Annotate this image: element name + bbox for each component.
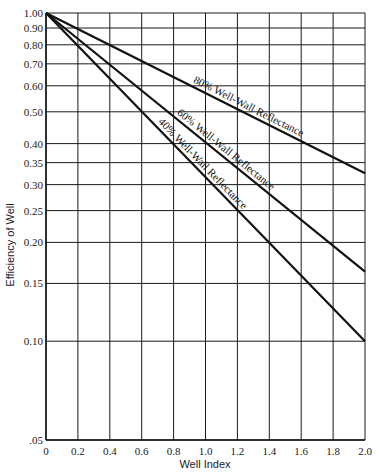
x-tick-label: 0.8 (167, 445, 181, 457)
x-tick-label: 0.4 (103, 445, 117, 457)
y-tick-label: 0.70 (24, 58, 44, 70)
y-tick-label: 0.35 (24, 157, 44, 169)
x-tick-label: 1.6 (294, 445, 308, 457)
x-tick-label: 1.2 (231, 445, 245, 457)
y-tick-label: 0.30 (24, 179, 44, 191)
x-tick-label: 2.0 (358, 445, 372, 457)
x-tick-label: 1.8 (326, 445, 340, 457)
y-tick-label: 0.15 (24, 277, 44, 289)
x-tick-label: 0 (43, 445, 49, 457)
y-tick-label: 0.60 (24, 80, 44, 92)
x-tick-label: 1.0 (199, 445, 213, 457)
y-tick-label: .05 (29, 434, 43, 446)
x-tick-label: 1.4 (262, 445, 276, 457)
y-tick-label: 0.50 (24, 106, 44, 118)
y-tick-label: 0.40 (24, 138, 44, 150)
x-tick-label: 0.2 (71, 445, 85, 457)
series-labels: 80% Well-Wall Reflectance60% Well-Wall R… (156, 73, 306, 211)
y-tick-label: 0.10 (24, 335, 44, 347)
efficiency-chart: 1.000.900.800.700.600.500.400.350.300.25… (0, 0, 379, 475)
y-tick-label: 0.80 (24, 39, 44, 51)
x-tick-label: 0.6 (135, 445, 149, 457)
x-axis-title: Well Index (179, 458, 231, 470)
y-tick-label: 0.90 (24, 22, 44, 34)
y-axis-ticks: 1.000.900.800.700.600.500.400.350.300.25… (24, 7, 44, 446)
x-axis-ticks: 00.20.40.60.81.01.21.41.61.82.0 (43, 445, 372, 457)
y-axis-title: Efficiency of Well (4, 203, 16, 286)
y-tick-label: 0.25 (24, 205, 44, 217)
y-tick-label: 0.20 (24, 236, 44, 248)
y-tick-label: 1.00 (24, 7, 44, 19)
